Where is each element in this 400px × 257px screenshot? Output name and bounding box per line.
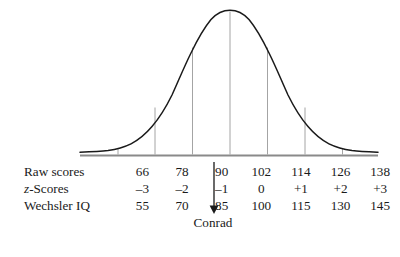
cell-z-z-plus3: +3 [360,180,400,197]
cell-iq-z-zero: 100 [241,197,281,214]
tick-lines-group [118,12,343,155]
cell-z-z-plus2: +2 [321,180,361,197]
row-label-z-scores-text: -Scores [29,181,69,196]
cell-iq-z-plus2: 130 [321,197,361,214]
cell-raw-z-plus1: 114 [281,163,321,180]
cell-z-z-zero: 0 [241,180,281,197]
cell-iq-z-minus1: 85 [202,197,242,214]
table-row-z-scores: z-Scores –3 –2 –1 0 +1 +2 +3 [0,180,400,197]
cell-iq-z-minus2: 70 [162,197,202,214]
cell-z-z-minus2: –2 [162,180,202,197]
bell-curve-area [0,0,400,162]
row-label-raw-scores: Raw scores [0,163,123,180]
cell-z-z-minus3: –3 [123,180,163,197]
bell-curve-svg [0,0,400,162]
conrad-pointer-label: Conrad [194,216,233,229]
normal-distribution-figure: Raw scores 66 78 90 102 114 126 138 z-Sc… [0,0,400,257]
cell-raw-z-plus2: 126 [321,163,361,180]
row-label-wechsler-iq: Wechsler IQ [0,197,123,214]
row-label-z-scores: z-Scores [0,180,123,197]
cell-raw-z-minus1: 90 [202,163,242,180]
cell-raw-z-minus2: 78 [162,163,202,180]
cell-iq-z-minus3: 55 [123,197,163,214]
cell-z-z-minus1: –1 [202,180,242,197]
cell-iq-z-plus3: 145 [360,197,400,214]
cell-raw-z-zero: 102 [241,163,281,180]
table-row-raw-scores: Raw scores 66 78 90 102 114 126 138 [0,163,400,180]
score-table: Raw scores 66 78 90 102 114 126 138 z-Sc… [0,163,400,214]
conrad-pointer-label-wrapper: Conrad [0,216,400,229]
row-label-wechsler-iq-text: Wechsler IQ [24,198,90,213]
cell-raw-z-plus3: 138 [360,163,400,180]
normal-curve-path [80,10,378,152]
cell-iq-z-plus1: 115 [281,197,321,214]
row-label-raw-scores-text: Raw scores [24,164,84,179]
cell-raw-z-minus3: 66 [123,163,163,180]
cell-z-z-plus1: +1 [281,180,321,197]
table-row-wechsler-iq: Wechsler IQ 55 70 85 100 115 130 145 [0,197,400,214]
